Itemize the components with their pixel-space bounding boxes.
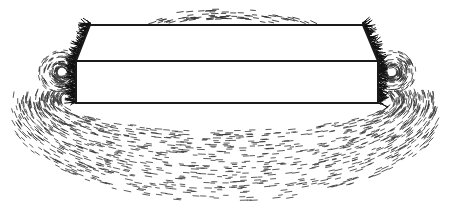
diagram-canvas [0,0,449,212]
magnet-field-diagram [0,0,449,212]
magnet-front-face [76,61,378,103]
magnet-top-face [76,25,378,61]
